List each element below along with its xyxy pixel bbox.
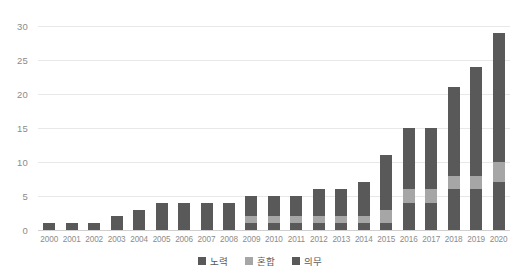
bar-stack-2005[interactable] — [156, 203, 168, 230]
y-axis-tick-15: 15 — [17, 123, 28, 134]
bar-segment-노력-2016 — [403, 203, 415, 230]
x-axis-tick-2016: 2016 — [398, 232, 420, 248]
bar-segment-노력-2018 — [448, 189, 460, 230]
bar-segment-의무-2007 — [201, 203, 213, 223]
bar-segment-의무-2018 — [448, 87, 460, 175]
bar-stack-2000[interactable] — [43, 223, 55, 230]
bar-segment-의무-2014 — [358, 182, 370, 216]
bar-segment-혼합-2011 — [290, 216, 302, 223]
y-axis: 302520151050 — [0, 26, 34, 230]
bar-slot-2008 — [218, 26, 240, 230]
bar-stack-2001[interactable] — [66, 223, 78, 230]
legend-swatch-icon — [245, 257, 253, 265]
bar-stack-2010[interactable] — [268, 196, 280, 230]
x-axis-tick-2004: 2004 — [128, 232, 150, 248]
bar-slot-2007 — [195, 26, 217, 230]
y-axis-tick-0: 0 — [23, 225, 28, 236]
bar-stack-2003[interactable] — [111, 216, 123, 230]
bar-slot-2013 — [330, 26, 352, 230]
bar-segment-노력-2005 — [156, 223, 168, 230]
x-axis-tick-2012: 2012 — [308, 232, 330, 248]
bar-stack-2016[interactable] — [403, 128, 415, 230]
bar-slot-2017 — [420, 26, 442, 230]
bar-segment-노력-2001 — [66, 223, 78, 230]
bar-stack-2008[interactable] — [223, 203, 235, 230]
bar-segment-노력-2007 — [201, 223, 213, 230]
legend-item-혼합[interactable]: 혼합 — [245, 254, 275, 268]
bar-slot-2009 — [240, 26, 262, 230]
x-axis-tick-2010: 2010 — [263, 232, 285, 248]
bar-segment-노력-2010 — [268, 223, 280, 230]
x-axis-tick-2008: 2008 — [218, 232, 240, 248]
bar-segment-혼합-2016 — [403, 189, 415, 203]
bar-segment-의무-2019 — [470, 67, 482, 176]
bar-stack-2007[interactable] — [201, 203, 213, 230]
x-axis-tick-2011: 2011 — [285, 232, 307, 248]
bar-segment-노력-2006 — [178, 223, 190, 230]
x-axis-tick-2017: 2017 — [420, 232, 442, 248]
bar-stack-2014[interactable] — [358, 182, 370, 230]
bar-segment-노력-2014 — [358, 223, 370, 230]
bar-slot-2004 — [128, 26, 150, 230]
bar-stack-2002[interactable] — [88, 223, 100, 230]
y-axis-tick-20: 20 — [17, 89, 28, 100]
bar-slot-2012 — [308, 26, 330, 230]
x-axis-tick-2018: 2018 — [442, 232, 464, 248]
bar-stack-2009[interactable] — [245, 196, 257, 230]
bar-stack-2015[interactable] — [380, 155, 392, 230]
bar-segment-의무-2003 — [111, 216, 123, 223]
bar-slot-2018 — [442, 26, 464, 230]
stacked-bar-chart: 302520151050 200020012002200320042005200… — [0, 0, 520, 274]
bar-segment-노력-2013 — [335, 223, 347, 230]
x-axis-tick-2006: 2006 — [173, 232, 195, 248]
legend-swatch-icon — [292, 257, 300, 265]
y-axis-tick-5: 5 — [23, 191, 28, 202]
x-axis-tick-2013: 2013 — [330, 232, 352, 248]
legend-swatch-icon — [198, 257, 206, 265]
bar-stack-2004[interactable] — [133, 210, 145, 230]
legend-item-의무[interactable]: 의무 — [292, 254, 322, 268]
bar-slot-2003 — [105, 26, 127, 230]
bar-slot-2005 — [150, 26, 172, 230]
bar-segment-의무-2004 — [133, 210, 145, 224]
bar-segment-노력-2012 — [313, 223, 325, 230]
bar-slot-2010 — [263, 26, 285, 230]
bar-slot-2016 — [398, 26, 420, 230]
legend-item-노력[interactable]: 노력 — [198, 254, 228, 268]
bar-segment-노력-2017 — [425, 203, 437, 230]
bar-segment-노력-2019 — [470, 189, 482, 230]
bar-segment-혼합-2013 — [335, 216, 347, 223]
bar-segment-혼합-2018 — [448, 176, 460, 190]
bar-segment-혼합-2009 — [245, 216, 257, 223]
bar-slot-2015 — [375, 26, 397, 230]
bar-segment-노력-2004 — [133, 223, 145, 230]
bar-stack-2020[interactable] — [493, 33, 505, 230]
bar-slot-2001 — [60, 26, 82, 230]
legend-item-label: 의무 — [304, 254, 322, 268]
x-axis-tick-2014: 2014 — [353, 232, 375, 248]
bar-stack-2018[interactable] — [448, 87, 460, 230]
bar-segment-의무-2017 — [425, 128, 437, 189]
bar-segment-혼합-2019 — [470, 176, 482, 190]
x-axis: 2000200120022003200420052006200720082009… — [38, 232, 510, 248]
y-axis-tick-30: 30 — [17, 21, 28, 32]
bar-slot-2014 — [353, 26, 375, 230]
bar-stack-2011[interactable] — [290, 196, 302, 230]
bar-segment-의무-2013 — [335, 189, 347, 216]
bar-segment-의무-2005 — [156, 203, 168, 223]
bar-segment-의무-2006 — [178, 203, 190, 223]
bar-segment-노력-2008 — [223, 223, 235, 230]
bar-segment-혼합-2014 — [358, 216, 370, 223]
bar-segment-의무-2016 — [403, 128, 415, 189]
bar-stack-2017[interactable] — [425, 128, 437, 230]
bar-stack-2013[interactable] — [335, 189, 347, 230]
bar-slot-2000 — [38, 26, 60, 230]
bar-segment-혼합-2020 — [493, 162, 505, 182]
y-axis-tick-10: 10 — [17, 157, 28, 168]
bar-segment-노력-2009 — [245, 223, 257, 230]
x-axis-tick-2002: 2002 — [83, 232, 105, 248]
bar-stack-2019[interactable] — [470, 67, 482, 230]
bar-segment-노력-2003 — [111, 223, 123, 230]
bar-stack-2012[interactable] — [313, 189, 325, 230]
bar-stack-2006[interactable] — [178, 203, 190, 230]
